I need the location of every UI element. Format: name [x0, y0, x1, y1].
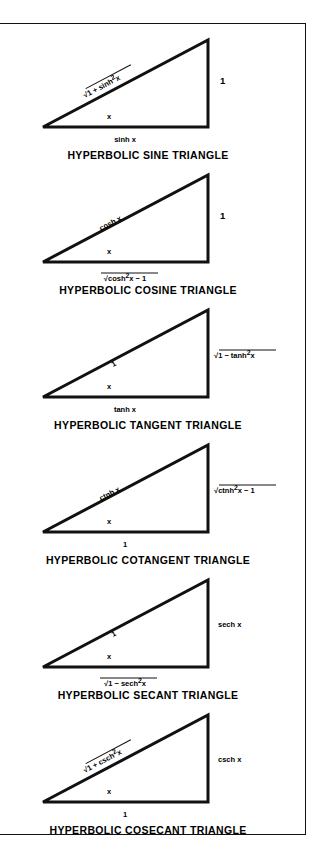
base-side-label: 1 [123, 810, 127, 819]
angle-label: x [107, 382, 112, 391]
radical-var: x − 1 [129, 274, 146, 283]
figure-caption: HYPERBOLIC COSINE TRIANGLE [0, 284, 307, 296]
svg-text:ctnh x: ctnh x [98, 484, 122, 503]
right-triangle-outline [43, 40, 208, 127]
hypotenuse-side-label: cosh x [98, 213, 124, 232]
vertical-side-label: 1 [220, 210, 226, 221]
svg-text:1: 1 [110, 629, 118, 639]
figure-hyperbolic-cosecant: x csch x 1 √1 + csch2x HYPERBOLIC COSECA… [0, 701, 307, 836]
figure-hyperbolic-cotangent: x 1 √ctnh2x − 1 ctnh x HYPERBOLIC COTANG… [0, 431, 307, 566]
radicand: ctnh [218, 486, 234, 495]
vertical-side-label: 1 [220, 75, 226, 86]
hypotenuse-side-label: 1 [110, 359, 118, 369]
svg-text:√ctnh2x − 1: √ctnh2x − 1 [214, 484, 255, 495]
figure-hyperbolic-cosine: x 1 √cosh2x − 1 cosh x HYPERBOLIC COSINE… [0, 161, 307, 296]
base-side-label: √1 − sech2x [100, 677, 157, 688]
hypotenuse-side-label: ctnh x [98, 484, 122, 503]
radical-var: x [142, 679, 147, 688]
angle-label: x [107, 652, 112, 661]
triangle-hyperbolic-cosecant: x csch x 1 √1 + csch2x [0, 701, 307, 823]
figure-hyperbolic-tangent: x tanh x √1 − tanh2x 1 HYPERBOLIC TANGEN… [0, 296, 307, 431]
radicand: 1 + sinh [85, 77, 114, 98]
radical-var: x − 1 [238, 486, 255, 495]
radical-var: x [250, 351, 255, 360]
vertical-side-label: √1 − tanh2x [214, 349, 276, 360]
radical-var: x [115, 747, 124, 757]
radicand: cosh [108, 274, 126, 283]
svg-text:cosh x: cosh x [98, 213, 124, 232]
triangle-hyperbolic-sine: x 1 sinh x √1 + sinh2x [0, 26, 307, 148]
svg-text:√1 − tanh2x: √1 − tanh2x [214, 349, 255, 360]
figure-caption: HYPERBOLIC COSECANT TRIANGLE [0, 824, 307, 836]
base-side-label: sinh x [114, 135, 137, 144]
angle-label: x [107, 787, 112, 796]
svg-text:1: 1 [110, 359, 118, 369]
right-triangle-outline [43, 580, 208, 667]
angle-label: x [107, 112, 112, 121]
radicand: 1 − tanh [218, 351, 247, 360]
base-side-label: 1 [123, 540, 127, 549]
triangle-hyperbolic-tangent: x tanh x √1 − tanh2x 1 [0, 296, 307, 418]
base-side-label: tanh x [114, 405, 137, 414]
vertical-side-label: √ctnh2x − 1 [214, 484, 276, 495]
radical-var: x [114, 73, 123, 83]
right-triangle-outline [43, 175, 208, 262]
vertical-side-label: csch x [218, 755, 242, 764]
diagram-plate: x 1 sinh x √1 + sinh2x HYPERBOLIC SINE T… [0, 23, 306, 835]
triangle-hyperbolic-cotangent: x 1 √ctnh2x − 1 ctnh x [0, 431, 307, 553]
right-triangle-outline [43, 310, 208, 397]
radicand: 1 − sech [108, 679, 138, 688]
figure-caption: HYPERBOLIC TANGENT TRIANGLE [0, 419, 307, 431]
figure-hyperbolic-sine: x 1 sinh x √1 + sinh2x HYPERBOLIC SINE T… [0, 26, 307, 161]
figure-caption: HYPERBOLIC SINE TRIANGLE [0, 149, 307, 161]
figure-hyperbolic-secant: x sech x √1 − sech2x 1 HYPERBOLIC SECANT… [0, 566, 307, 701]
vertical-side-label: sech x [218, 620, 242, 629]
triangle-hyperbolic-secant: x sech x √1 − sech2x 1 [0, 566, 307, 688]
right-triangle-outline [43, 715, 208, 802]
triangle-hyperbolic-cosine: x 1 √cosh2x − 1 cosh x [0, 161, 307, 283]
base-side-label: √cosh2x − 1 [101, 272, 158, 283]
right-triangle-outline [43, 445, 208, 532]
figure-caption: HYPERBOLIC COTANGENT TRIANGLE [0, 554, 307, 566]
hypotenuse-side-label: 1 [110, 629, 118, 639]
svg-text:√cosh2x − 1: √cosh2x − 1 [104, 272, 146, 283]
angle-label: x [107, 517, 112, 526]
figure-caption: HYPERBOLIC SECANT TRIANGLE [0, 689, 307, 701]
svg-text:√1 − sech2x: √1 − sech2x [104, 677, 147, 688]
angle-label: x [107, 247, 112, 256]
